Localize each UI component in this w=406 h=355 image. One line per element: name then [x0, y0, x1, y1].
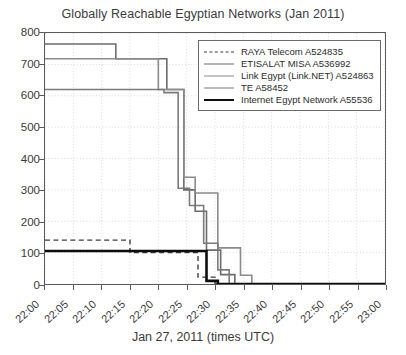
x-tick-label: 22:00 [13, 298, 41, 325]
x-tick-label: 22:35 [212, 298, 240, 325]
x-tick-label: 22:10 [70, 298, 98, 325]
x-tick-label: 22:45 [269, 298, 297, 325]
x-tick-mark [44, 285, 45, 290]
x-tick-mark [101, 285, 102, 290]
legend-item[interactable]: ETISALAT MISA A536992 [204, 58, 374, 69]
legend-label: RAYA Telecom A524835 [241, 46, 343, 57]
x-tick-mark [358, 285, 359, 290]
x-tick-mark [301, 285, 302, 290]
x-tick-mark [215, 285, 216, 290]
x-tick-label: 22:40 [241, 298, 269, 325]
legend-item[interactable]: Internet Egypt Network A55536 [204, 94, 374, 105]
legend-swatch-icon [204, 59, 234, 69]
x-tick-mark [73, 285, 74, 290]
x-tick-label: 22:05 [41, 298, 69, 325]
x-tick-mark [244, 285, 245, 290]
x-tick-mark [187, 285, 188, 290]
x-tick-mark [386, 285, 387, 290]
legend-label: Link Egypt (Link.NET) A524863 [241, 70, 374, 81]
x-axis-label: Jan 27, 2011 (times UTC) [0, 330, 406, 344]
series-line-0 [45, 240, 385, 284]
legend-swatch-icon [204, 95, 234, 105]
series-line-4 [45, 251, 385, 284]
x-tick-mark [130, 285, 131, 290]
x-tick-label: 23:00 [355, 298, 383, 325]
x-tick-mark [329, 285, 330, 290]
legend-label: Internet Egypt Network A55536 [241, 94, 373, 105]
x-tick-label: 22:25 [155, 298, 183, 325]
legend-swatch-icon [204, 83, 234, 93]
x-tick-label: 22:30 [184, 298, 212, 325]
x-tick-mark [272, 285, 273, 290]
chart-legend: RAYA Telecom A524835ETISALAT MISA A53699… [198, 40, 381, 111]
legend-swatch-icon [204, 71, 234, 81]
legend-item[interactable]: TE A58452 [204, 82, 374, 93]
x-tick-label: 22:20 [127, 298, 155, 325]
x-tick-mark [158, 285, 159, 290]
chart-figure: Globally Reachable Egyptian Networks (Ja… [0, 0, 406, 355]
series-line-3 [45, 89, 385, 284]
x-tick-label: 22:55 [326, 298, 354, 325]
x-tick-label: 22:50 [298, 298, 326, 325]
legend-swatch-icon [204, 47, 234, 57]
x-tick-label: 22:15 [98, 298, 126, 325]
legend-label: ETISALAT MISA A536992 [241, 58, 351, 69]
legend-item[interactable]: RAYA Telecom A524835 [204, 46, 374, 57]
legend-item[interactable]: Link Egypt (Link.NET) A524863 [204, 70, 374, 81]
legend-label: TE A58452 [241, 82, 288, 93]
